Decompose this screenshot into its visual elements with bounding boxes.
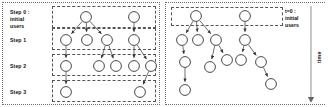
left-nodes <box>61 12 157 98</box>
right-edges <box>183 21 268 82</box>
node-r6 <box>222 55 233 66</box>
edge-r0-r2 <box>196 22 197 32</box>
panel-discrete-steps: Step 0 : initial users Step 1 Step 2 Ste… <box>0 0 163 107</box>
edge-s1-s3 <box>248 45 256 56</box>
node-r0 <box>191 11 202 22</box>
edge-a0-a3 <box>90 21 101 34</box>
node-d1 <box>61 87 72 98</box>
node-r7 <box>180 85 191 96</box>
node-c2 <box>94 61 105 72</box>
node-s2 <box>236 55 247 66</box>
node-a3 <box>102 35 113 46</box>
node-d2 <box>135 87 146 98</box>
node-b1 <box>129 35 140 46</box>
node-s1 <box>240 35 251 46</box>
node-s4 <box>266 79 277 90</box>
edge-r3-r6 <box>219 45 223 53</box>
node-c1 <box>61 61 72 72</box>
edge-r0-r1 <box>186 21 193 33</box>
panel-continuous-time: t=0 : initial users time <box>163 0 328 107</box>
edge-b1-c5 <box>137 45 146 59</box>
edge-s1-s2 <box>243 46 244 52</box>
node-r3 <box>211 35 222 46</box>
node-s3 <box>256 57 267 68</box>
node-s0 <box>240 11 251 22</box>
node-r4 <box>180 57 191 68</box>
right-cascade-graph <box>163 0 328 107</box>
node-c3 <box>111 61 122 72</box>
node-r5 <box>205 62 216 73</box>
figure-cascade-comparison: Step 0 : initial users Step 1 Step 2 Ste… <box>0 0 328 107</box>
left-cascade-graph <box>0 0 163 107</box>
node-r2 <box>193 35 204 46</box>
node-r1 <box>177 35 188 46</box>
edge-c5-d2 <box>143 71 149 84</box>
edge-s3-s4 <box>263 67 267 76</box>
edge-r0-r3 <box>200 21 211 34</box>
left-edges <box>66 21 149 84</box>
node-c5 <box>146 61 157 72</box>
edge-r3-r5 <box>212 46 215 59</box>
edge-a3-c3 <box>109 46 113 59</box>
edge-a3-c2 <box>101 46 105 59</box>
node-a1 <box>61 35 72 46</box>
node-a0 <box>81 12 92 23</box>
node-c4 <box>129 61 140 72</box>
node-a2 <box>82 35 93 46</box>
edge-a0-a1 <box>71 21 82 33</box>
edge-r1-r4 <box>183 46 184 54</box>
node-b0 <box>129 12 140 23</box>
